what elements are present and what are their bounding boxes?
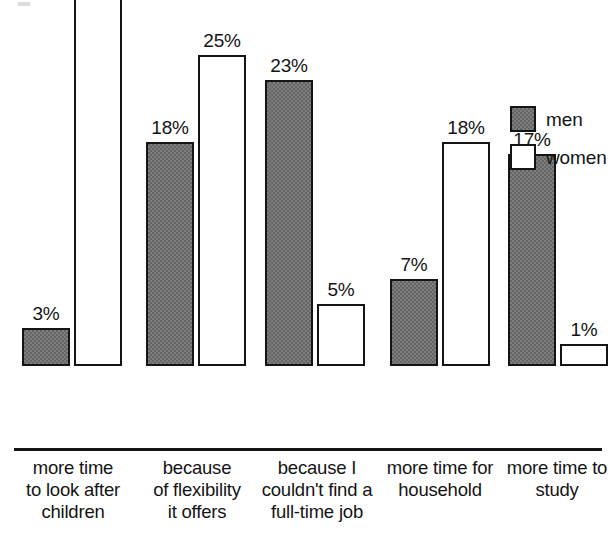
grouped-bar-chart: 3% 33% more time to look after children … [0,0,612,535]
bar-men-2[interactable] [146,142,194,366]
category-label-line: more time to [484,457,612,479]
legend-label-women: women [546,148,607,167]
plot-area: 3% 33% more time to look after children … [0,0,612,452]
bar-value-men-4: 7% [400,255,427,279]
category-label-line: full-time job [242,501,392,523]
bar-women-2[interactable] [198,55,246,366]
legend-item-men[interactable]: men [510,103,607,135]
bar-value-women-2: 25% [203,31,240,55]
women-swatch-icon [510,144,536,170]
bar-value-women-5: 1% [570,320,597,344]
bar-slot-men-2: 18% [146,118,194,366]
bar-slot-women-4: 18% [442,118,490,366]
bar-slot-men-4: 7% [390,255,438,366]
bar-men-5[interactable] [508,154,556,366]
bar-value-men-3: 23% [270,56,307,80]
bar-women-3[interactable] [317,304,365,366]
category-label-line: study [484,479,612,501]
bar-men-4[interactable] [390,279,438,366]
men-swatch-icon [510,106,536,132]
legend: men women [510,103,607,179]
bar-pair-3: 23% 5% [265,56,365,366]
bar-slot-women-5: 1% [560,320,608,366]
category-label-5: more time to study [484,457,612,501]
bar-women-4[interactable] [442,142,490,366]
bar-slot-men-3: 23% [265,56,313,366]
bar-men-1[interactable] [22,328,70,366]
bar-slot-women-2: 25% [198,31,246,366]
legend-label-men: men [546,110,583,129]
bar-slot-men-1: 3% [22,304,70,366]
bar-men-3[interactable] [265,80,313,366]
bar-slot-women-3: 5% [317,280,365,366]
bar-pair-4: 7% 18% [390,118,490,366]
bar-value-women-3: 5% [327,280,354,304]
bar-value-women-4: 18% [447,118,484,142]
legend-item-women[interactable]: women [510,141,607,173]
bar-slot-women-1: 33% [74,0,122,366]
x-axis-baseline [14,448,602,451]
bar-pair-1: 3% 33% [22,0,122,366]
bar-value-men-1: 3% [32,304,59,328]
bar-women-1[interactable] [74,0,122,366]
bar-women-5[interactable] [560,344,608,366]
bar-value-men-2: 18% [151,118,188,142]
bar-pair-2: 18% 25% [146,31,246,366]
